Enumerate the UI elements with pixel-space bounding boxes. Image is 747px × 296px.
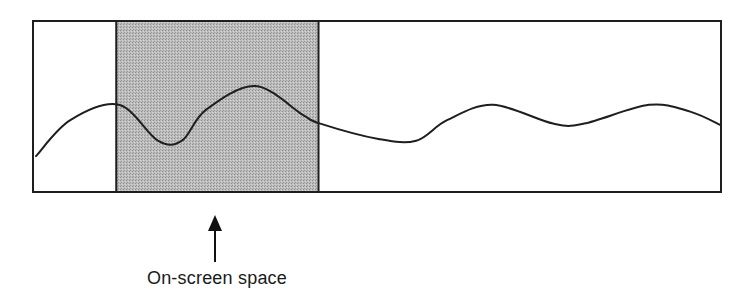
diagram-canvas [0, 0, 747, 296]
on-screen-viewport-region [116, 21, 318, 192]
on-screen-space-label: On-screen space [137, 268, 297, 289]
arrow-up-icon [208, 215, 222, 231]
